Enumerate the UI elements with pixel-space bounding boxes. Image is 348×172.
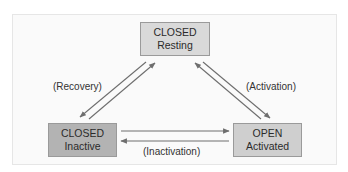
label-activation: (Activation): [246, 81, 296, 92]
state-line2: Activated: [246, 140, 289, 153]
state-closed-resting: CLOSED Resting: [140, 22, 210, 56]
state-line1: CLOSED: [61, 127, 104, 140]
state-open-activated: OPEN Activated: [233, 123, 302, 157]
state-line2: Inactive: [64, 140, 100, 153]
state-line1: OPEN: [253, 127, 283, 140]
state-line1: CLOSED: [153, 26, 196, 39]
state-closed-inactive: CLOSED Inactive: [48, 123, 117, 157]
state-line2: Resting: [157, 39, 193, 52]
label-inactivation: (Inactivation): [143, 146, 200, 157]
label-recovery: (Recovery): [53, 81, 102, 92]
